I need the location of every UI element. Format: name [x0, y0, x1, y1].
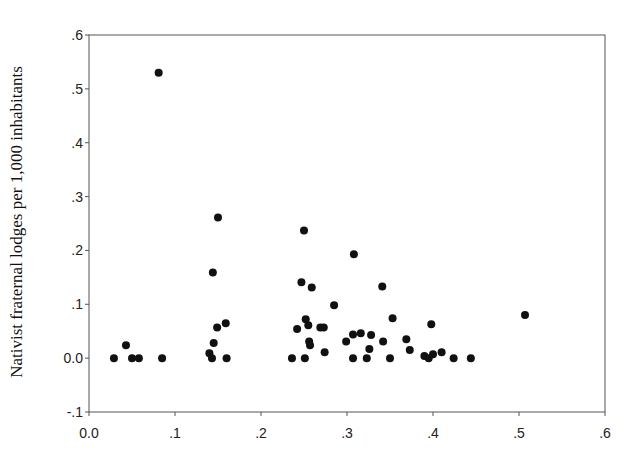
x-axis: 0.0.1.2.3.4.5.6 — [79, 412, 611, 441]
data-point — [438, 348, 446, 356]
data-point — [222, 319, 230, 327]
data-point — [208, 354, 216, 362]
data-point — [128, 354, 136, 362]
y-tick-label: .4 — [71, 135, 83, 151]
data-point — [300, 227, 308, 235]
data-point — [349, 330, 357, 338]
x-tick-label: .6 — [599, 425, 611, 441]
data-point — [406, 346, 414, 354]
data-point — [379, 337, 387, 345]
data-point — [521, 311, 529, 319]
data-point — [209, 269, 217, 277]
y-tick-label: 0.0 — [64, 350, 84, 366]
data-point — [223, 354, 231, 362]
data-point — [330, 301, 338, 309]
data-point — [342, 337, 350, 345]
data-point — [378, 283, 386, 291]
data-point — [386, 354, 394, 362]
data-point — [122, 341, 130, 349]
y-tick-label: -.1 — [67, 404, 84, 420]
data-point — [308, 284, 316, 292]
x-tick-label: .1 — [169, 425, 181, 441]
data-point — [304, 321, 312, 329]
data-point — [429, 350, 437, 358]
data-point — [320, 323, 328, 331]
data-points — [110, 69, 529, 362]
data-point — [363, 354, 371, 362]
data-point — [288, 354, 296, 362]
data-point — [357, 329, 365, 337]
x-tick-label: .5 — [513, 425, 525, 441]
data-point — [389, 314, 397, 322]
data-point — [214, 214, 222, 222]
y-tick-label: .2 — [71, 242, 83, 258]
x-tick-label: .3 — [341, 425, 353, 441]
y-tick-label: .5 — [71, 81, 83, 97]
y-axis-label: Nativist fraternal lodges per 1,000 inha… — [7, 66, 26, 378]
data-point — [467, 354, 475, 362]
data-point — [158, 354, 166, 362]
plot-frame — [89, 35, 605, 412]
y-tick-label: .6 — [71, 27, 83, 43]
data-point — [427, 320, 435, 328]
data-point — [367, 331, 375, 339]
x-tick-label: .2 — [255, 425, 267, 441]
y-tick-label: .3 — [71, 189, 83, 205]
data-point — [350, 250, 358, 258]
data-point — [135, 354, 143, 362]
data-point — [213, 323, 221, 331]
x-tick-label: 0.0 — [79, 425, 99, 441]
data-point — [297, 278, 305, 286]
data-point — [293, 325, 301, 333]
y-tick-label: .1 — [71, 296, 83, 312]
data-point — [321, 348, 329, 356]
y-axis: -.10.0.1.2.3.4.5.6 — [64, 27, 89, 420]
scatter-chart: 0.0.1.2.3.4.5.6 -.10.0.1.2.3.4.5.6 Nativ… — [0, 0, 638, 468]
data-point — [365, 345, 373, 353]
data-point — [155, 69, 163, 77]
data-point — [450, 354, 458, 362]
data-point — [110, 354, 118, 362]
data-point — [349, 354, 357, 362]
x-tick-label: .4 — [427, 425, 439, 441]
data-point — [210, 339, 218, 347]
data-point — [402, 335, 410, 343]
data-point — [301, 354, 309, 362]
data-point — [306, 341, 314, 349]
